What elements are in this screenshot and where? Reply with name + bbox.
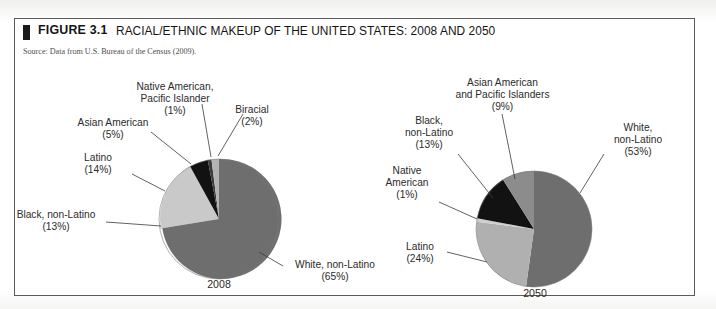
label-asian-american-2008-line1: Asian American: [65, 117, 161, 129]
label-latino-2050-pct: (24%): [390, 253, 450, 265]
label-asian-american-2008: Asian American (5%): [65, 117, 161, 141]
pie-chart-2008: [159, 159, 282, 279]
label-white-non-latino-2050-line2: non-Latino: [596, 134, 680, 146]
charts-container: Native American, Pacific Islander (1%) B…: [15, 19, 694, 295]
label-white-non-latino-2008: White, non-Latino (65%): [285, 259, 385, 283]
label-black-non-latino-2008: Black, non-Latino (13%): [7, 209, 105, 233]
leader-native-2050: [439, 202, 477, 219]
label-native-american-2008-line1: Native American,: [109, 81, 241, 93]
pie-chart-2050: [476, 171, 592, 287]
label-white-non-latino-2050-pct: (53%): [596, 146, 680, 158]
leader-black-2050: [458, 154, 493, 198]
label-black-non-latino-2008-line1: Black, non-Latino: [7, 209, 105, 221]
leader-latino-2050: [447, 252, 487, 262]
label-latino-2008: Latino (14%): [67, 152, 129, 176]
label-native-american-2050: Native American (1%): [373, 165, 441, 202]
label-latino-2050-line1: Latino: [390, 241, 450, 253]
label-asian-pacific-2050-line2: and Pacific Islanders: [430, 89, 575, 101]
label-asian-pacific-2050: Asian American and Pacific Islanders (9%…: [430, 77, 575, 114]
label-asian-american-2008-pct: (5%): [65, 129, 161, 141]
year-label-2008: 2008: [189, 278, 249, 290]
label-biracial-2008-line1: Biracial: [222, 104, 282, 116]
year-label-2050: 2050: [505, 287, 565, 299]
label-black-non-latino-2050-line2: non-Latino: [396, 127, 462, 139]
label-native-american-2050-pct: (1%): [373, 189, 441, 201]
label-white-non-latino-2050-line1: White,: [596, 122, 680, 134]
label-native-american-2050-line1: Native: [373, 165, 441, 177]
slice-latino-2050: [476, 222, 534, 287]
label-asian-pacific-2050-pct: (9%): [430, 101, 575, 113]
label-latino-2050: Latino (24%): [390, 241, 450, 265]
label-black-non-latino-2050-pct: (13%): [396, 139, 462, 151]
page-canvas: FIGURE 3.1 RACIAL/ETHNIC MAKEUP OF THE U…: [0, 0, 716, 309]
label-black-non-latino-2050-line1: Black,: [396, 115, 462, 127]
label-latino-2008-line1: Latino: [67, 152, 129, 164]
label-white-non-latino-2008-pct: (65%): [285, 271, 385, 283]
label-native-american-2050-line2: American: [373, 177, 441, 189]
figure-box: FIGURE 3.1 RACIAL/ETHNIC MAKEUP OF THE U…: [14, 18, 695, 296]
label-biracial-2008-pct: (2%): [222, 116, 282, 128]
leader-white-2050: [580, 154, 604, 193]
label-latino-2008-pct: (14%): [67, 164, 129, 176]
leader-black-2008: [106, 222, 161, 226]
label-biracial-2008: Biracial (2%): [222, 104, 282, 128]
label-asian-pacific-2050-line1: Asian American: [430, 77, 575, 89]
leader-asian-2050: [502, 114, 515, 179]
label-black-non-latino-2050: Black, non-Latino (13%): [396, 115, 462, 152]
label-white-non-latino-2050: White, non-Latino (53%): [596, 122, 680, 159]
label-black-non-latino-2008-pct: (13%): [7, 221, 105, 233]
label-white-non-latino-2008-line1: White, non-Latino: [285, 259, 385, 271]
slice-white-non-latino-2050: [526, 171, 592, 287]
leader-latino-2008: [132, 174, 165, 191]
